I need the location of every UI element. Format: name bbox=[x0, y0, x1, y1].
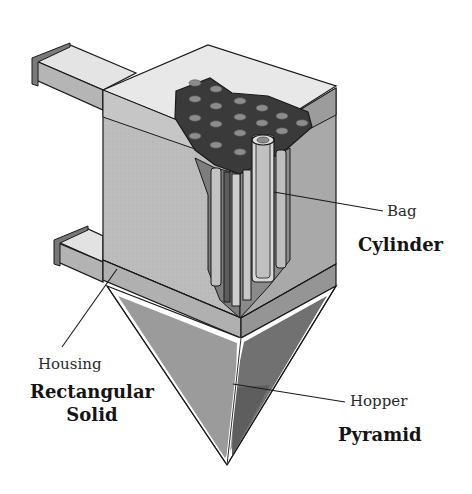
bag-label: Bag bbox=[387, 202, 417, 220]
bottom-outlet-duct bbox=[54, 226, 103, 282]
baghouse-diagram: Bag Cylinder Housing Rectangular Solid H… bbox=[0, 0, 472, 494]
hopper-label: Hopper bbox=[350, 392, 407, 410]
solid-label: Solid bbox=[26, 404, 158, 426]
housing-leader-line bbox=[62, 269, 117, 347]
bag-cylinder[interactable] bbox=[252, 135, 274, 282]
cylinder-label: Cylinder bbox=[358, 234, 443, 256]
pyramid-label: Pyramid bbox=[338, 424, 422, 446]
rectangular-label: Rectangular bbox=[26, 381, 158, 403]
housing-label: Housing bbox=[38, 355, 102, 373]
